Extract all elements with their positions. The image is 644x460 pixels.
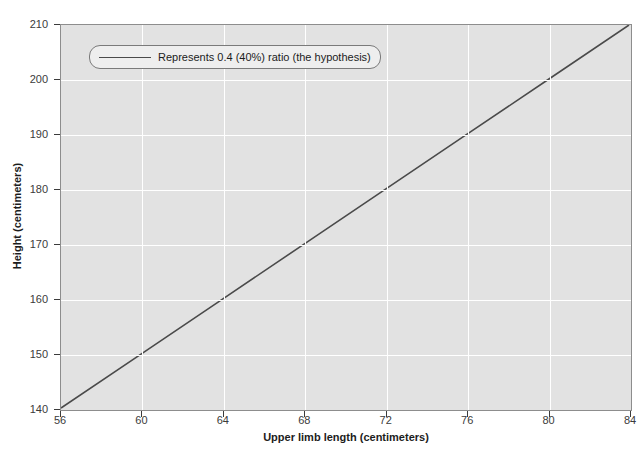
y-tick-mark <box>54 134 60 135</box>
y-tick-mark <box>54 244 60 245</box>
gridline-horizontal <box>61 80 631 81</box>
gridline-horizontal <box>61 190 631 191</box>
x-tick-label: 64 <box>217 414 229 426</box>
y-tick-mark <box>54 299 60 300</box>
y-tick-mark <box>54 24 60 25</box>
gridline-vertical <box>550 25 551 410</box>
gridline-vertical <box>387 25 388 410</box>
gridline-horizontal <box>61 245 631 246</box>
legend-entry: Represents 0.4 (40%) ratio (the hypothes… <box>99 51 371 63</box>
y-tick-label: 150 <box>30 348 48 360</box>
y-tick-label: 170 <box>30 238 48 250</box>
x-tick-label: 60 <box>135 414 147 426</box>
series-line-0 <box>61 25 629 408</box>
y-tick-label: 180 <box>30 183 48 195</box>
y-tick-mark <box>54 409 60 410</box>
gridline-vertical <box>142 25 143 410</box>
x-tick-label: 84 <box>624 414 636 426</box>
gridline-vertical <box>468 25 469 410</box>
legend-entry-label: Represents 0.4 (40%) ratio (the hypothes… <box>158 51 371 63</box>
x-tick-label: 72 <box>380 414 392 426</box>
y-tick-label: 160 <box>30 293 48 305</box>
y-tick-mark <box>54 189 60 190</box>
y-tick-label: 200 <box>30 73 48 85</box>
y-tick-mark <box>54 354 60 355</box>
y-tick-label: 210 <box>30 18 48 30</box>
gridline-horizontal <box>61 135 631 136</box>
x-tick-label: 80 <box>542 414 554 426</box>
gridline-vertical <box>305 25 306 410</box>
series-line-layer <box>61 25 631 410</box>
x-tick-label: 76 <box>461 414 473 426</box>
x-tick-label: 68 <box>298 414 310 426</box>
gridline-horizontal <box>61 355 631 356</box>
gridline-horizontal <box>61 300 631 301</box>
chart-figure: Upper limb length (centimeters) Height (… <box>0 0 644 460</box>
x-axis-title: Upper limb length (centimeters) <box>60 431 632 443</box>
gridline-vertical <box>224 25 225 410</box>
y-axis-title: Height (centimeters) <box>11 106 23 326</box>
y-tick-label: 140 <box>30 403 48 415</box>
line-swatch-icon <box>99 57 151 58</box>
y-tick-label: 190 <box>30 128 48 140</box>
chart-legend: Represents 0.4 (40%) ratio (the hypothes… <box>89 45 381 69</box>
x-tick-label: 56 <box>54 414 66 426</box>
plot-area <box>60 24 632 411</box>
y-tick-mark <box>54 79 60 80</box>
